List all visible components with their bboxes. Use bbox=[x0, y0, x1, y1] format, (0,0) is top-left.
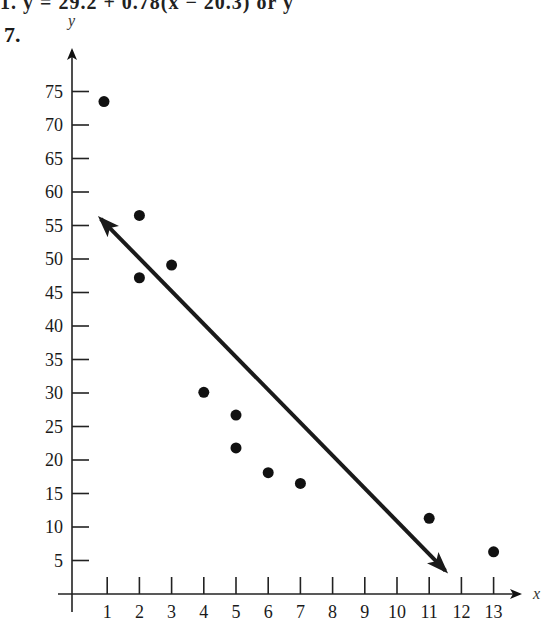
data-point bbox=[231, 410, 242, 421]
x-tick-label: 5 bbox=[232, 602, 241, 622]
data-point bbox=[424, 513, 435, 524]
y-tick-label: 5 bbox=[54, 551, 63, 571]
y-tick-label: 15 bbox=[45, 484, 63, 504]
x-tick-label: 6 bbox=[264, 602, 273, 622]
y-tick-label: 55 bbox=[45, 216, 63, 236]
y-tick-label: 35 bbox=[45, 350, 63, 370]
data-point bbox=[98, 96, 109, 107]
x-tick-label: 11 bbox=[421, 602, 438, 622]
y-tick-label: 40 bbox=[45, 316, 63, 336]
x-tick-label: 1 bbox=[103, 602, 112, 622]
best-fit-line bbox=[101, 219, 446, 571]
data-point bbox=[134, 272, 145, 283]
x-tick-label: 8 bbox=[328, 602, 337, 622]
x-tick-label: 2 bbox=[135, 602, 144, 622]
y-tick-label: 60 bbox=[45, 182, 63, 202]
x-tick-label: 4 bbox=[199, 602, 208, 622]
x-tick-label: 13 bbox=[485, 602, 503, 622]
y-tick-label: 45 bbox=[45, 283, 63, 303]
x-tick-label: 3 bbox=[167, 602, 176, 622]
y-axis-label: y bbox=[66, 12, 76, 30]
y-tick-label: 25 bbox=[45, 417, 63, 437]
y-tick-label: 75 bbox=[45, 82, 63, 102]
data-point bbox=[295, 478, 306, 489]
y-tick-label: 10 bbox=[45, 517, 63, 537]
data-point bbox=[231, 442, 242, 453]
y-tick-label: 30 bbox=[45, 383, 63, 403]
y-tick-label: 65 bbox=[45, 149, 63, 169]
y-tick-label: 20 bbox=[45, 450, 63, 470]
data-point bbox=[166, 260, 177, 271]
data-point bbox=[198, 387, 209, 398]
data-point bbox=[488, 546, 499, 557]
y-tick-label: 50 bbox=[45, 249, 63, 269]
x-tick-label: 9 bbox=[360, 602, 369, 622]
data-point bbox=[263, 467, 274, 478]
data-point bbox=[134, 210, 145, 221]
x-tick-label: 7 bbox=[296, 602, 305, 622]
x-tick-label: 10 bbox=[388, 602, 406, 622]
x-axis-label: x bbox=[532, 585, 540, 602]
scatter-plot: yx51015202530354045505560657075123456789… bbox=[0, 0, 544, 627]
x-tick-label: 12 bbox=[452, 602, 470, 622]
y-tick-label: 70 bbox=[45, 115, 63, 135]
